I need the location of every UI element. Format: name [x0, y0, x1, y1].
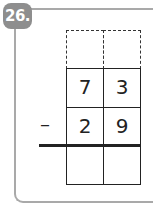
subtrahend-ones: 9: [103, 107, 141, 146]
answer-box-tens[interactable]: [66, 145, 104, 185]
minus-sign: –: [40, 112, 50, 136]
carry-box-ones[interactable]: [103, 30, 141, 69]
minuend-tens: 7: [66, 68, 104, 108]
carry-box-tens[interactable]: [66, 30, 104, 69]
minuend-ones: 3: [103, 68, 141, 108]
problem-number-badge: 26.: [3, 3, 32, 29]
answer-box-ones[interactable]: [103, 145, 141, 185]
subtrahend-tens: 2: [66, 107, 104, 146]
